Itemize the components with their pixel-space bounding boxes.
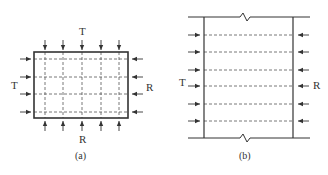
label-right: R [313, 79, 321, 91]
top-break-line [188, 13, 310, 21]
caption-b: (b) [239, 150, 251, 162]
label-top: T [79, 25, 86, 37]
panel-b: T R (b) [179, 13, 321, 162]
label-bottom: R [79, 133, 87, 145]
label-right: R [146, 81, 154, 93]
bottom-break-line [188, 134, 310, 142]
slab-rectangle [34, 52, 128, 118]
grid-dashed-lines [34, 52, 128, 118]
label-left: T [11, 79, 18, 91]
label-left: T [179, 76, 186, 88]
caption-a: (a) [75, 150, 86, 162]
panel-a: T T R R (a) [11, 25, 154, 162]
diagram-canvas: T T R R (a) T R (b) [0, 0, 328, 175]
dashed-lines [204, 35, 293, 121]
arrows-group [188, 35, 309, 121]
